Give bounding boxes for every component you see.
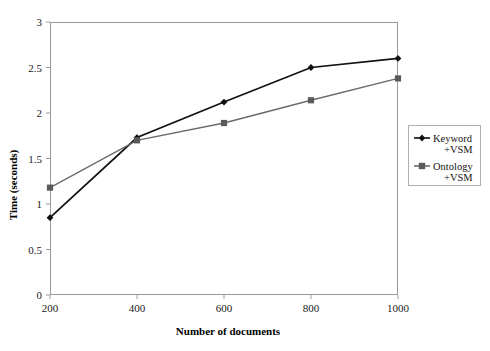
data-point-square-icon — [221, 120, 227, 126]
data-point-diamond-icon — [308, 64, 315, 71]
x-tick-label: 600 — [216, 302, 233, 314]
y-axis-ticks — [46, 22, 50, 295]
legend-marker-square-icon — [419, 163, 425, 169]
data-point-square-icon — [47, 185, 53, 191]
data-point-diamond-icon — [395, 55, 402, 62]
data-point-square-icon — [308, 97, 314, 103]
line-chart: 00.511.522.53 2004006008001000 Time (sec… — [0, 0, 490, 351]
series-markers — [47, 55, 402, 221]
legend-label-keyword-line2: +VSM — [444, 144, 473, 155]
y-tick-label: 2 — [37, 107, 43, 119]
x-axis-ticks — [50, 295, 398, 299]
data-point-square-icon — [134, 137, 140, 143]
x-axis-title: Number of documents — [176, 325, 281, 337]
y-axis-tick-labels: 00.511.522.53 — [28, 16, 42, 301]
data-point-diamond-icon — [221, 99, 228, 106]
y-tick-label: 0 — [37, 289, 43, 301]
legend-label-ontology-line1: Ontology — [433, 161, 473, 172]
y-tick-label: 2.5 — [28, 62, 42, 74]
data-point-square-icon — [395, 75, 401, 81]
x-axis-tick-labels: 2004006008001000 — [42, 302, 410, 314]
series-lines — [50, 58, 398, 217]
x-tick-label: 1000 — [387, 302, 410, 314]
x-tick-label: 200 — [42, 302, 59, 314]
x-tick-label: 400 — [129, 302, 146, 314]
series-line-ontology — [50, 78, 398, 187]
chart-container: 00.511.522.53 2004006008001000 Time (sec… — [0, 0, 490, 351]
x-tick-label: 800 — [303, 302, 320, 314]
y-axis-title: Time (seconds) — [7, 149, 20, 220]
legend-label-keyword-line1: Keyword — [433, 133, 473, 144]
y-tick-label: 1 — [37, 198, 43, 210]
legend-label-ontology-line2: +VSM — [444, 172, 473, 183]
series-line-keyword — [50, 58, 398, 217]
y-tick-label: 3 — [37, 16, 43, 28]
y-tick-label: 1.5 — [28, 153, 42, 165]
y-tick-label: 0.5 — [28, 244, 42, 256]
